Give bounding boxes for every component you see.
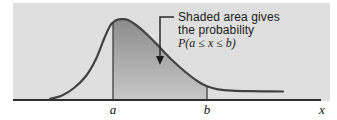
b-axis-label: b [204,102,211,117]
density-figure: Shaded area gives the probability P(a ≤ … [0,0,337,120]
annotation-text-line2: the probability [178,23,254,37]
annotation-probability-expression: P(a ≤ x ≤ b) [177,36,236,50]
annotation-text-line1: Shaded area gives [178,10,280,24]
density-plot-svg: Shaded area gives the probability P(a ≤ … [0,0,337,120]
a-axis-label: a [110,102,117,117]
x-axis-label: x [318,102,325,117]
